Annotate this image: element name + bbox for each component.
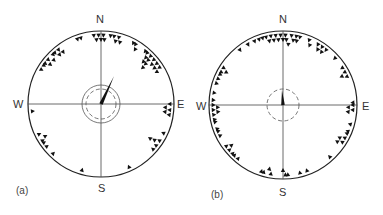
bearing-marker-triangle [212,90,216,94]
bearing-marker-triangle [333,56,337,60]
bearing-marker-triangle [214,81,218,85]
orientation-diagrams [0,0,383,215]
bearing-marker-triangle [343,137,348,141]
bearing-marker-triangle [346,110,350,114]
panel-label-b: (b) [211,190,223,200]
bearing-marker-triangle [43,61,48,65]
bearing-marker-triangle [216,110,220,114]
bearing-marker-triangle [348,123,352,127]
bearing-marker-triangle [60,49,64,54]
bearing-marker-triangle [212,98,216,102]
bearing-marker-triangle [273,34,277,38]
bearing-marker-triangle [267,167,271,171]
bearing-marker-triangle [229,144,234,148]
bearing-marker-triangle [37,133,42,137]
bearing-marker-triangle [212,113,216,117]
bearing-marker-triangle [141,65,145,69]
bearing-marker-triangle [316,47,320,52]
bearing-marker-triangle [264,35,268,39]
bearing-marker-triangle [224,145,229,149]
bearing-marker-triangle [78,36,82,40]
bearing-marker-triangle [320,50,324,55]
bearing-marker-triangle [167,113,171,117]
bearing-marker-triangle [51,152,55,156]
bearing-marker-triangle [99,38,103,42]
bearing-marker-triangle [134,47,138,52]
bearing-marker-triangle [114,39,118,43]
bearing-marker-triangle [216,76,221,80]
bearing-marker-triangle [350,108,354,112]
bearing-marker-triangle [128,165,132,170]
bearing-marker-triangle [157,139,162,143]
bearing-marker-triangle [260,36,264,40]
mean-vector-arrow [99,76,114,105]
bearing-marker-triangle [294,34,298,38]
bearing-marker-triangle [218,134,223,138]
bearing-marker-triangle [148,137,153,141]
bearing-marker-triangle [284,38,288,42]
east-label-b: E [362,101,369,112]
bearing-marker-triangle [79,168,83,172]
bearing-marker-triangle [56,47,60,52]
bearing-marker-triangle [224,70,229,74]
bearing-marker-triangle [155,61,160,65]
bearing-marker-triangle [227,148,231,152]
bearing-marker-triangle [118,40,122,44]
circular-plot-b [209,31,357,179]
bearing-marker-triangle [221,65,226,69]
bearing-marker-triangle [219,70,224,74]
bearing-marker-triangle [162,110,166,114]
bearing-marker-triangle [161,132,166,136]
bearing-marker-triangle [245,42,249,47]
bearing-marker-triangle [252,39,256,44]
bearing-marker-triangle [112,34,116,38]
bearing-marker-triangle [216,105,220,109]
bearing-marker-triangle [272,38,276,42]
bearing-marker-triangle [44,145,49,149]
bearing-marker-triangle [308,43,312,48]
bearing-marker-triangle [268,34,272,38]
bearing-marker-triangle [91,34,95,38]
bearing-marker-triangle [328,155,332,159]
bearing-marker-triangle [295,39,299,43]
bearing-marker-triangle [39,67,44,71]
bearing-marker-triangle [155,69,160,73]
bearing-marker-triangle [257,37,261,42]
bearing-marker-triangle [152,57,156,61]
bearing-marker-triangle [212,108,216,112]
bearing-marker-triangle [57,52,61,56]
bearing-marker-triangle [152,139,157,143]
bearing-marker-triangle [150,62,155,66]
panel-label-a: (a) [16,186,28,196]
bearing-marker-triangle [94,38,98,42]
bearing-marker-triangle [276,38,280,42]
bearing-marker-triangle [134,42,138,47]
bearing-marker-triangle [337,136,342,140]
bearing-marker-triangle [46,57,50,61]
bearing-marker-triangle [51,57,55,61]
west-label-a: W [13,99,23,110]
west-label-b: W [196,101,206,112]
bearing-marker-triangle [340,65,345,69]
bearing-marker-triangle [259,169,263,173]
bearing-marker-triangle [290,34,294,38]
circular-plot-a [28,31,174,177]
bearing-marker-triangle [345,132,350,136]
bearing-marker-triangle [102,38,106,42]
bearing-marker-triangle [237,47,241,52]
bearing-marker-triangle [212,103,216,107]
south-label-b: S [279,187,286,198]
bearing-marker-triangle [298,170,302,174]
bearing-marker-triangle [278,34,282,38]
bearing-marker-triangle [283,34,287,38]
bearing-marker-triangle [305,168,309,173]
bearing-marker-triangle [335,140,340,144]
bearing-marker-triangle [149,54,153,58]
bearing-marker-triangle [298,35,302,39]
bearing-marker-triangle [48,62,53,66]
bearing-marker-triangle [152,65,157,69]
bearing-marker-triangle [43,135,48,139]
bearing-marker-triangle [167,102,171,106]
bearing-marker-triangle [281,168,285,172]
bearing-marker-triangle [167,108,171,112]
